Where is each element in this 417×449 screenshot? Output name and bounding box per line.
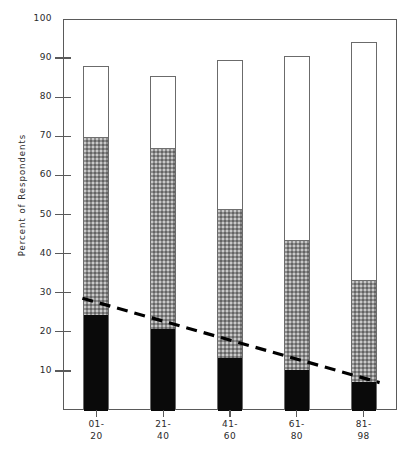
x-label-line2: 60 [195, 430, 265, 442]
x-label-line1: 41- [222, 419, 238, 429]
y-axis-tick-value: 30 [4, 287, 52, 297]
y-axis-tick [55, 136, 71, 137]
y-axis-tick [55, 331, 71, 332]
bar-segment-white [218, 61, 242, 209]
bar-01-20 [83, 66, 109, 410]
y-axis-title: Percent of Respondents [17, 95, 27, 295]
x-axis-tick [163, 410, 164, 417]
x-label-line2: 40 [128, 430, 198, 442]
y-axis-tick [55, 57, 71, 58]
x-axis-tick [363, 410, 364, 417]
x-label-line1: 21- [155, 419, 171, 429]
x-label-line2: 80 [262, 430, 332, 442]
bar-segment-white [151, 77, 175, 148]
bar-segment-black [84, 315, 108, 411]
bar-segment-gray [151, 148, 175, 329]
y-axis-tick [55, 292, 71, 293]
bar-segment-black [218, 358, 242, 411]
x-label-line1: 81- [356, 419, 372, 429]
y-axis-tick [55, 370, 71, 371]
bar-segment-gray [84, 137, 108, 315]
y-axis-tick-value: 10 [4, 365, 52, 375]
y-axis-tick-value: 60 [4, 169, 52, 179]
bar-segment-gray [352, 280, 376, 382]
y-axis-tick-value: 80 [4, 91, 52, 101]
bar-segment-white [285, 57, 309, 240]
y-axis-tick-value: 100 [4, 13, 52, 23]
x-label-line1: 61- [289, 419, 305, 429]
x-axis-tick [296, 410, 297, 417]
x-axis-tick-label: 21-40 [128, 418, 198, 442]
x-axis-tick-label: 01-20 [61, 418, 131, 442]
x-label-line2: 98 [329, 430, 399, 442]
bar-21-40 [150, 76, 176, 410]
bar-segment-black [352, 382, 376, 411]
x-axis-tick-label: 61-80 [262, 418, 332, 442]
bar-61-80 [284, 56, 310, 410]
bar-81-98 [351, 42, 377, 410]
y-axis-tick-value: 70 [4, 130, 52, 140]
bar-segment-gray [285, 240, 309, 370]
x-label-line1: 01- [88, 419, 104, 429]
bar-segment-white [84, 67, 108, 137]
bar-segment-gray [218, 209, 242, 358]
chart-container: Percent of Respondents 10203040506070809… [0, 0, 417, 449]
x-axis-tick [229, 410, 230, 417]
y-axis-tick-value: 40 [4, 248, 52, 258]
bar-41-60 [217, 60, 243, 410]
x-axis-tick-label: 81-98 [329, 418, 399, 442]
y-axis-tick-value: 90 [4, 52, 52, 62]
y-axis-tick [55, 175, 71, 176]
x-label-line2: 20 [61, 430, 131, 442]
x-axis-tick-label: 41-60 [195, 418, 265, 442]
y-axis-tick [55, 214, 71, 215]
x-axis-tick [96, 410, 97, 417]
y-axis-tick-value: 20 [4, 326, 52, 336]
bar-segment-black [151, 329, 175, 411]
y-axis-tick [55, 97, 71, 98]
y-axis-tick-value: 50 [4, 209, 52, 219]
bar-segment-white [352, 43, 376, 280]
bar-segment-black [285, 370, 309, 411]
y-axis-tick [55, 253, 71, 254]
